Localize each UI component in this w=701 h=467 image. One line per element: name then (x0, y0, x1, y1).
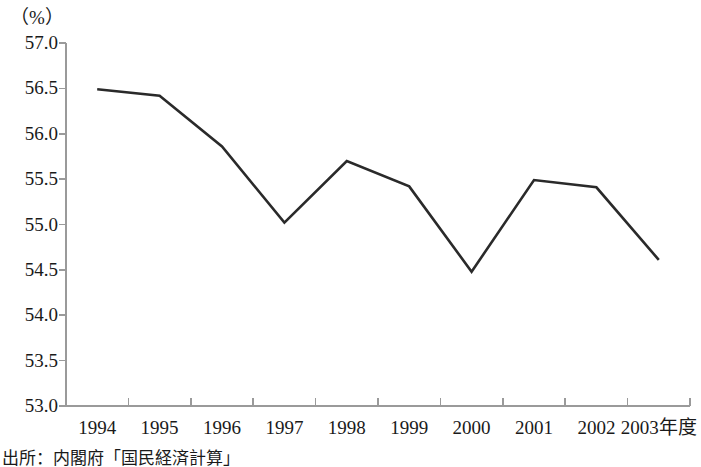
y-axis-tick-label: 56.0 (2, 124, 58, 143)
y-axis-tick-label: 54.5 (2, 260, 58, 279)
chart-axes (59, 43, 690, 406)
x-axis-tick-label: 2003年度 (609, 418, 701, 437)
y-axis-tick-label: 55.0 (2, 215, 58, 234)
y-axis-tick-label: 56.5 (2, 78, 58, 97)
data-series-group (97, 89, 659, 271)
y-axis-tick-label: 57.0 (2, 33, 58, 52)
data-line (97, 89, 659, 271)
y-axis-tick-label: 55.5 (2, 169, 58, 188)
source-note: 出所：内閣府「国民経済計算」 (2, 449, 240, 467)
y-axis-tick-label: 53.5 (2, 351, 58, 370)
y-axis-tick-label: 54.0 (2, 305, 58, 324)
y-axis-tick-label: 53.0 (2, 396, 58, 415)
